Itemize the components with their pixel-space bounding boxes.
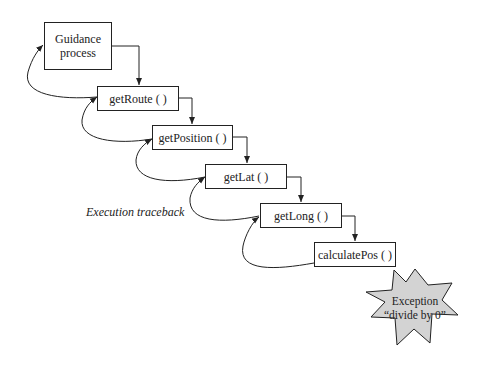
node-getroute: getRoute ( ) bbox=[97, 86, 179, 111]
exception-line2: “divide by 0” bbox=[375, 308, 455, 322]
exception-label: Exception “divide by 0” bbox=[375, 294, 455, 322]
node-guidance-line1: Guidance bbox=[55, 32, 101, 46]
call-arrow-guidance-getroute bbox=[112, 46, 139, 85]
call-arrow-getposition-getlat bbox=[233, 137, 247, 163]
traceback-arrows bbox=[27, 45, 314, 268]
execution-traceback-label: Execution traceback bbox=[86, 205, 184, 220]
node-calculatepos: calculatePos ( ) bbox=[314, 242, 396, 267]
node-getlong: getLong ( ) bbox=[260, 203, 342, 228]
node-getposition: getPosition ( ) bbox=[152, 125, 233, 150]
node-guidance-process: Guidance process bbox=[44, 22, 112, 70]
node-getlat: getLat ( ) bbox=[205, 164, 287, 189]
call-arrow-getroute-getposition bbox=[179, 98, 192, 124]
node-guidance-line2: process bbox=[55, 46, 101, 60]
exception-line1: Exception bbox=[375, 294, 455, 308]
call-arrow-getlong-calculatepos bbox=[342, 216, 355, 241]
call-arrow-getlat-getlong bbox=[287, 177, 301, 202]
